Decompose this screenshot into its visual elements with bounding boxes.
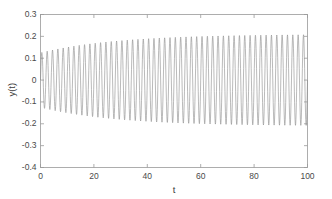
y-tick-label: -0.4 xyxy=(2,163,37,172)
x-tick-label: 40 xyxy=(134,172,160,181)
y-tick-label: -0.1 xyxy=(2,97,37,106)
y-tick-label: -0.3 xyxy=(2,141,37,150)
y-tick-label: -0.2 xyxy=(2,119,37,128)
y-tick-label: 0.3 xyxy=(2,10,37,19)
figure-canvas: y(t) t 0.30.20.10-0.1-0.2-0.3-0.4 020406… xyxy=(0,0,332,199)
x-tick-label: 0 xyxy=(28,172,54,181)
x-axis-label: t xyxy=(41,185,308,195)
y-tick-label: 0.1 xyxy=(2,54,37,63)
x-tick-label: 20 xyxy=(81,172,107,181)
y-tick-label: 0.2 xyxy=(2,32,37,41)
series-line-yt xyxy=(41,35,308,126)
x-tick-label: 80 xyxy=(241,172,267,181)
x-tick-label: 60 xyxy=(188,172,214,181)
y-tick-label: 0 xyxy=(2,76,37,85)
plot-area xyxy=(0,0,332,199)
x-tick-label: 100 xyxy=(295,172,321,181)
